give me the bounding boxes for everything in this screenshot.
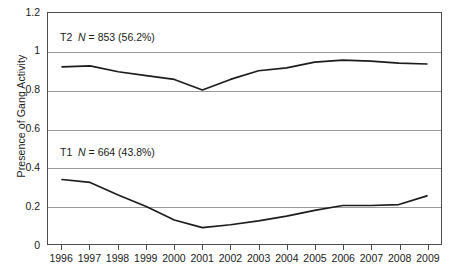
y-tick-label: 0.2 (10, 201, 40, 212)
annotation-t2: T2 N = 853 (56.2%) (60, 31, 155, 43)
series-line-t1 (62, 180, 427, 228)
x-tick (259, 245, 260, 250)
annotation-t1: T1 N = 664 (43.8%) (60, 146, 155, 158)
series-lines (48, 13, 441, 244)
x-tick (89, 245, 90, 250)
x-tick (315, 245, 316, 250)
y-tick-label: 1 (10, 45, 40, 56)
annotation-n-symbol: N (78, 146, 86, 158)
x-tick (287, 245, 288, 250)
series-line-t2 (62, 60, 427, 90)
x-tick-label: 2009 (408, 252, 448, 264)
gang-activity-line-chart: Presence of Gang Activity 00.20.40.60.81… (0, 0, 453, 274)
y-tick-label: 0.6 (10, 123, 40, 134)
x-tick (118, 245, 119, 250)
y-tick-label: 0.8 (10, 84, 40, 95)
y-tick-label: 1.2 (10, 7, 40, 18)
x-axis-tick-labels: 1996199719981999200020012002200320042005… (47, 252, 442, 268)
annotation-n-value: = 664 (43.8%) (86, 146, 155, 158)
annotation-series-label: T2 (60, 31, 78, 43)
annotation-n-value: = 853 (56.2%) (86, 31, 155, 43)
annotation-series-label: T1 (60, 146, 78, 158)
x-tick (400, 245, 401, 250)
x-tick (428, 245, 429, 250)
y-tick-label: 0.4 (10, 162, 40, 173)
x-tick (174, 245, 175, 250)
x-axis-ticks (47, 245, 442, 250)
x-tick (146, 245, 147, 250)
plot-area: T2 N = 853 (56.2%)T1 N = 664 (43.8%) (47, 12, 442, 245)
y-axis-tick-labels: 00.20.40.60.811.2 (10, 0, 40, 274)
x-tick (61, 245, 62, 250)
x-tick (202, 245, 203, 250)
annotation-n-symbol: N (78, 31, 86, 43)
x-tick (343, 245, 344, 250)
x-tick (371, 245, 372, 250)
y-tick-label: 0 (10, 240, 40, 251)
x-tick (230, 245, 231, 250)
